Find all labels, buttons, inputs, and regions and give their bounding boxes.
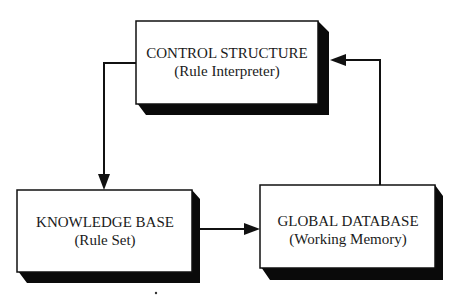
expert-system-diagram: CONTROL STRUCTURE (Rule Interpreter) KNO…	[0, 0, 459, 298]
node-subtitle: (Working Memory)	[289, 231, 407, 248]
node-global-database: GLOBAL DATABASE (Working Memory)	[260, 185, 443, 280]
node-control-structure: CONTROL STRUCTURE (Rule Interpreter)	[136, 21, 329, 115]
edge-knowledge-to-global	[200, 223, 260, 235]
arrowhead-down-icon	[98, 174, 110, 190]
arrowhead-left-icon	[330, 54, 346, 66]
scan-speck	[155, 292, 157, 294]
node-title: KNOWLEDGE BASE	[36, 214, 174, 230]
edge-control-to-knowledge	[98, 63, 136, 190]
node-knowledge-base: KNOWLEDGE BASE (Rule Set)	[17, 190, 200, 283]
node-title: GLOBAL DATABASE	[277, 213, 418, 229]
edge-global-to-control	[330, 54, 380, 185]
node-subtitle: (Rule Set)	[74, 232, 135, 249]
arrowhead-right-icon	[244, 223, 260, 235]
connector-line	[104, 63, 136, 176]
connector-line	[344, 60, 380, 185]
node-title: CONTROL STRUCTURE	[146, 45, 308, 61]
box	[17, 190, 192, 272]
node-subtitle: (Rule Interpreter)	[174, 63, 279, 80]
